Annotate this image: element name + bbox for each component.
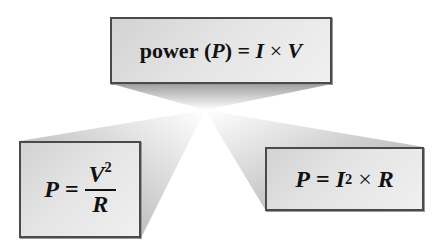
- voltage-symbol: V: [288, 38, 303, 64]
- power-voltage-resistance-box: P = V2 R: [19, 141, 141, 238]
- resistance-symbol: R: [378, 166, 394, 193]
- power-symbol: P: [295, 166, 310, 193]
- power-definition-box: power (P) = I × V: [110, 17, 332, 84]
- current-symbol: I: [336, 166, 345, 193]
- equals-sign: =: [316, 166, 330, 193]
- power-symbol: P: [211, 38, 224, 64]
- fraction: V2 R: [85, 162, 116, 216]
- exponent: 2: [105, 159, 112, 175]
- multiply-sign: ×: [270, 38, 282, 64]
- power-label: power: [140, 38, 199, 64]
- ray-from-top-box: [112, 84, 332, 110]
- denominator: R: [92, 191, 108, 217]
- numerator: V2: [85, 162, 116, 190]
- voltage-symbol: V: [89, 161, 105, 187]
- equals-sign: =: [238, 38, 251, 64]
- equals-sign: =: [65, 176, 79, 203]
- current-symbol: I: [256, 38, 265, 64]
- multiply-sign: ×: [358, 166, 372, 193]
- power-symbol: P: [44, 176, 59, 203]
- power-current-resistance-box: P = I2 × R: [265, 147, 424, 211]
